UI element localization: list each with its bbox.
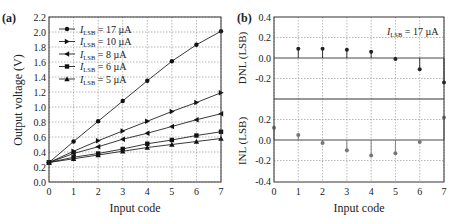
panel-a-y-tick-labels: 0.00.20.40.60.81.01.21.41.61.82.02.2 [34,12,47,188]
left-triangle-marker [194,117,199,122]
legend-item: ILSB = 10 µA [59,36,132,48]
square-marker [170,138,174,142]
data-point [296,47,300,51]
x-tick-label: 7 [219,186,224,197]
x-tick-label: 5 [169,186,174,197]
y-tick-label: 0.2 [259,32,272,43]
y-tick-label: 2.0 [34,27,47,38]
panel-a-label: (a) [2,11,16,25]
x-tick-label: 4 [369,186,374,197]
x-tick-label: 3 [344,186,349,197]
square-marker [194,133,198,137]
x-tick-label: 7 [442,186,447,197]
y-tick-label: 0.0 [259,135,272,146]
y-tick-label: 1.6 [34,57,47,68]
panel-b-y-tick-labels: 0.40.20.0-0.20.20.0-0.2-0.4 [255,12,271,187]
x-tick-label: 0 [272,186,277,197]
panel-a-x-axis-label: Input code [110,201,161,215]
panel-a-y-axis-label: Output voltage (V) [11,54,25,145]
panel-a-output-voltage-chart: 0.00.20.40.60.81.01.21.41.61.82.02.2 012… [2,11,224,215]
data-point [345,148,349,152]
x-tick-label: 1 [296,186,301,197]
inl-y-axis-label: INL (LSB) [236,117,249,166]
x-tick-label: 2 [320,186,325,197]
y-tick-label: 1.4 [34,72,47,83]
right-triangle-marker [96,138,101,143]
data-point [393,151,397,155]
circle-marker [121,99,125,103]
x-tick-label: 4 [145,186,150,197]
y-tick-label: 0.2 [259,114,272,125]
y-tick-label: -0.2 [255,73,271,84]
panel-a-legend: ILSB = 17 µAILSB = 10 µAILSB = 8 µAILSB … [59,24,132,86]
y-tick-label: 2.2 [34,12,47,23]
x-tick-label: 1 [71,186,76,197]
y-tick-label: -0.4 [255,176,271,187]
circle-marker [65,27,69,31]
legend-label: ILSB = 10 µA [79,36,132,48]
data-point [369,50,373,54]
y-tick-label: 0.4 [34,147,47,158]
circle-marker [71,139,75,143]
dnl-y-axis-label: DNL (LSB) [236,31,249,84]
panel-a-x-tick-labels: 01234567 [47,186,224,197]
circle-marker [170,59,174,63]
panel-b-annotation: ILSB = 17 µA [386,26,439,38]
y-tick-label: 1.2 [34,87,47,98]
square-marker [65,64,69,68]
left-triangle-marker [64,51,69,56]
y-tick-label: 0.6 [34,132,47,143]
panel-b-label: (b) [237,11,252,25]
data-point [418,67,422,71]
legend-label: ILSB = 17 µA [79,24,132,36]
legend-label: ILSB = 6 µA [79,61,127,73]
inl-points [272,115,446,157]
x-tick-label: 2 [96,186,101,197]
x-tick-label: 0 [47,186,52,197]
data-point [393,57,397,61]
x-tick-label: 5 [393,186,398,197]
data-point [369,153,373,157]
legend-item: ILSB = 6 µA [59,61,127,73]
y-tick-label: -0.2 [255,155,271,166]
y-tick-label: 0.4 [259,12,272,23]
circle-marker [145,79,149,83]
circle-marker [194,43,198,47]
panel-b-x-axis-label: Input code [334,201,385,215]
right-triangle-marker [65,39,70,44]
legend-item: ILSB = 5 µA [59,74,127,86]
figure: 0.00.20.40.60.81.01.21.41.61.82.02.2 012… [0,0,457,224]
legend-label: ILSB = 8 µA [79,49,127,61]
y-tick-label: 1.8 [34,42,47,53]
data-point [296,133,300,137]
data-point [345,48,349,52]
panel-b-x-tick-labels: 01234567 [272,186,447,197]
data-point [321,141,325,145]
data-point [418,140,422,144]
panel-a-series-lines [46,29,223,165]
panel-b-dnl-inl-chart: 0.40.20.0-0.20.20.0-0.2-0.4 01234567 (b)… [236,11,447,215]
legend-item: ILSB = 17 µA [59,24,132,36]
y-tick-label: 0.2 [34,162,47,173]
y-tick-label: 0.0 [34,177,47,188]
x-tick-label: 3 [120,186,125,197]
legend-label: ILSB = 5 µA [79,74,127,86]
circle-marker [96,119,100,123]
x-tick-label: 6 [194,186,199,197]
data-point [321,47,325,51]
y-tick-label: 0.8 [34,117,47,128]
y-tick-label: 1.0 [34,102,47,113]
left-triangle-marker [95,144,100,149]
y-tick-label: 0.0 [259,53,272,64]
x-tick-label: 6 [417,186,422,197]
legend-item: ILSB = 8 µA [59,49,127,61]
